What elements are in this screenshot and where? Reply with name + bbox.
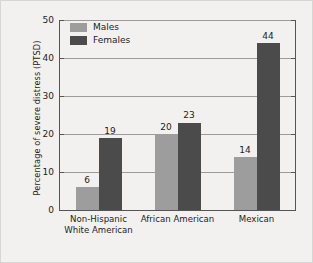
y-tick-label-10: 10 [43,167,54,177]
tick-left-40 [59,58,64,59]
bar-value-males-1: 20 [160,122,171,132]
bar-value-females-0: 19 [104,126,115,136]
y-axis-line-right [295,20,296,211]
y-tick-label-50: 50 [43,15,54,25]
tick-right-50 [291,20,296,21]
legend-label-females: Females [93,35,130,45]
tick-right-0 [291,210,296,211]
chart-legend: Males Females [70,22,130,45]
tick-left-30 [59,96,64,97]
bar-females-1 [178,123,201,210]
bar-females-0 [99,138,122,210]
legend-item-females[interactable]: Females [70,35,130,45]
gridline-50 [59,20,296,21]
x-tick-label-2: Mexican [239,214,274,225]
tick-left-10 [59,172,64,173]
chart-figure: Percentage of severe distress (PTSD) 010… [0,0,313,263]
tick-left-0 [59,210,64,211]
x-tick-label-line: African American [141,214,215,225]
bar-females-2 [257,43,280,210]
x-tick-label-0: Non-HispanicWhite American [64,214,133,236]
bar-value-females-1: 23 [183,110,194,120]
bar-males-0 [76,187,99,210]
legend-swatch-males-icon [70,23,87,32]
tick-right-10 [291,172,296,173]
x-axis-line [59,210,296,211]
x-tick-label-line: Non-Hispanic [64,214,133,225]
tick-right-40 [291,58,296,59]
y-axis-title: Percentage of severe distress (PTSD) [32,18,42,218]
x-tick-label-line: Mexican [239,214,274,225]
bar-males-1 [155,134,178,210]
tick-right-20 [291,134,296,135]
y-tick-label-0: 0 [48,205,54,215]
tick-left-20 [59,134,64,135]
tick-left-50 [59,20,64,21]
bar-value-females-2: 44 [262,31,273,41]
legend-swatch-females-icon [70,36,87,45]
legend-label-males: Males [93,22,119,32]
y-tick-label-20: 20 [43,129,54,139]
legend-item-males[interactable]: Males [70,22,130,32]
bar-value-males-2: 14 [239,145,250,155]
bar-value-males-0: 6 [84,175,90,185]
tick-right-30 [291,96,296,97]
plot-area: 01020304050 61920231444 Males Females [59,20,296,211]
x-tick-label-1: African American [141,214,215,225]
bar-males-2 [234,157,257,210]
y-tick-label-40: 40 [43,53,54,63]
y-tick-label-30: 30 [43,91,54,101]
x-tick-label-line: White American [64,225,133,236]
y-axis-line-left [59,20,60,211]
